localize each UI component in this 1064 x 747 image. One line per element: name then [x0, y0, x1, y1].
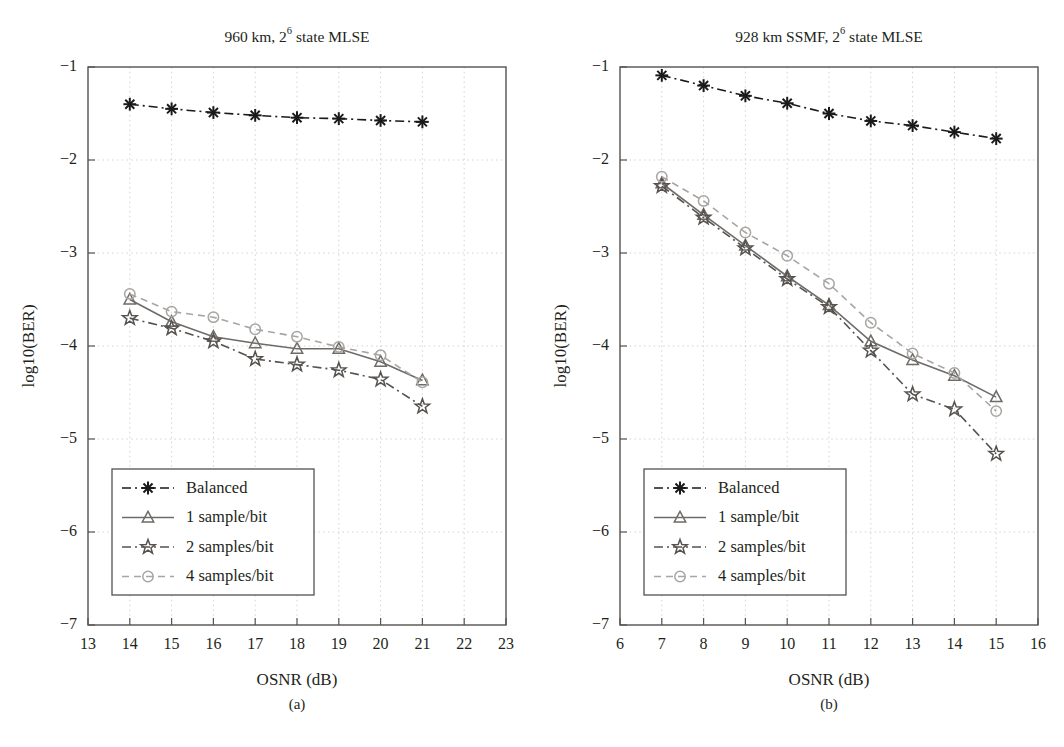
x-tick-label: 10	[779, 635, 795, 652]
x-tick-label: 15	[988, 635, 1004, 652]
data-point-star	[248, 351, 262, 365]
x-tick-label: 16	[1030, 635, 1046, 652]
legend-label: 2 samples/bit	[186, 537, 274, 556]
x-tick-label: 6	[616, 635, 624, 652]
legend-a: Balanced1 sample/bit2 samples/bit4 sampl…	[112, 469, 314, 595]
x-tick-label: 17	[247, 635, 263, 652]
caption-a: (a)	[289, 696, 306, 713]
chart-title-b: 928 km SSMF, 26 state MLSE	[735, 25, 922, 44]
chart-svg-b: 928 km SSMF, 26 state MLSE67891011121314…	[532, 0, 1064, 747]
y-tick-label: −5	[592, 429, 609, 446]
x-tick-label: 14	[946, 635, 962, 652]
y-tick-label: −7	[592, 615, 609, 632]
legend-label: 1 sample/bit	[718, 507, 800, 526]
y-tick-label: −2	[60, 150, 77, 167]
series-line	[130, 300, 423, 381]
y-tick-label: −6	[592, 522, 609, 539]
x-tick-label: 14	[122, 635, 138, 652]
x-tick-label: 23	[498, 635, 514, 652]
legend-b: Balanced1 sample/bit2 samples/bit4 sampl…	[644, 469, 846, 595]
data-point-star	[373, 372, 387, 386]
y-tick-label: −5	[60, 429, 77, 446]
series-group	[123, 98, 430, 413]
series-3	[125, 289, 428, 388]
chart-title-a: 960 km, 26 state MLSE	[224, 25, 369, 44]
y-axis-title-b: log10(BER)	[551, 304, 570, 387]
x-tick-label: 20	[373, 635, 389, 652]
y-tick-label: −6	[60, 522, 77, 539]
chart-panel-b: 928 km SSMF, 26 state MLSE67891011121314…	[532, 0, 1064, 747]
x-tick-label: 19	[331, 635, 347, 652]
legend-label: 4 samples/bit	[186, 566, 274, 585]
y-tick-label: −7	[60, 615, 77, 632]
legend-label: 2 samples/bit	[718, 537, 806, 556]
x-tick-label: 11	[821, 635, 836, 652]
x-axis-title-a: OSNR (dB)	[257, 670, 338, 689]
y-tick-label: −4	[592, 336, 609, 353]
x-tick-label: 16	[205, 635, 221, 652]
y-tick-label: −1	[60, 57, 77, 74]
y-tick-label: −4	[60, 336, 77, 353]
y-tick-label: −3	[592, 243, 609, 260]
x-tick-label: 12	[863, 635, 879, 652]
y-tick-label: −2	[592, 150, 609, 167]
y-tick-label: −3	[60, 243, 77, 260]
series-0	[123, 98, 428, 128]
x-tick-label: 7	[658, 635, 666, 652]
legend-label: Balanced	[186, 478, 248, 497]
caption-b: (b)	[820, 696, 838, 713]
chart-panel-a: 960 km, 26 state MLSE1314151617181920212…	[0, 0, 532, 747]
legend-label: Balanced	[718, 478, 780, 497]
x-tick-label: 13	[80, 635, 96, 652]
x-tick-label: 21	[414, 635, 430, 652]
x-tick-label: 13	[905, 635, 921, 652]
x-tick-label: 18	[289, 635, 305, 652]
y-tick-label: −1	[592, 57, 609, 74]
figure-container: 960 km, 26 state MLSE1314151617181920212…	[0, 0, 1064, 747]
legend-label: 4 samples/bit	[718, 566, 806, 585]
y-axis-title-a: log10(BER)	[19, 304, 38, 387]
x-tick-label: 15	[164, 635, 180, 652]
x-tick-label: 22	[456, 635, 472, 652]
x-axis-title-b: OSNR (dB)	[789, 670, 870, 689]
chart-svg-a: 960 km, 26 state MLSE1314151617181920212…	[0, 0, 532, 747]
legend-label: 1 sample/bit	[186, 507, 268, 526]
x-tick-label: 9	[741, 635, 749, 652]
x-tick-label: 8	[700, 635, 708, 652]
series-line	[130, 318, 423, 406]
